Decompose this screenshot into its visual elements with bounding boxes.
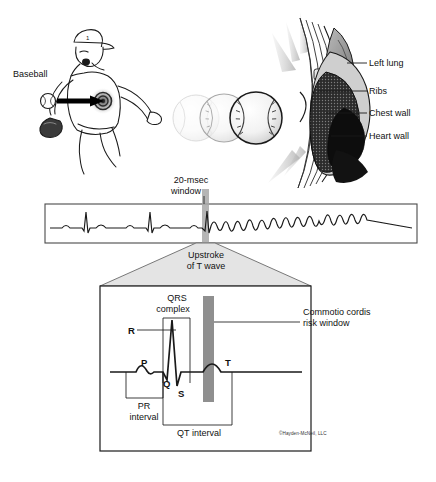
- figure-canvas: 1: [0, 0, 436, 482]
- ribs-label: Ribs: [369, 86, 387, 97]
- funnel-label-line2: of T wave: [173, 261, 239, 272]
- t-wave-label: T: [225, 357, 231, 368]
- chest-wall-label: Chest wall: [369, 108, 411, 119]
- risk-window-label-line1: Commotio cordis: [303, 307, 371, 318]
- chest-cross-section: [298, 18, 370, 188]
- pr-interval-label-line2: interval: [119, 412, 169, 423]
- baseball-primary: [230, 92, 282, 144]
- s-wave-label: S: [178, 388, 184, 399]
- funnel-label-line1: Upstroke: [173, 250, 239, 261]
- p-wave-label: P: [141, 357, 147, 368]
- detail-panel: [100, 286, 311, 451]
- left-lung-label: Left lung: [369, 58, 404, 69]
- rhythm-strip-panel: [45, 189, 417, 250]
- commotio-cordis-figure: 1: [0, 0, 436, 482]
- baseball-label: Baseball: [13, 69, 48, 80]
- impact-shock-rays: [268, 12, 308, 183]
- baseball-motion-sequence: [173, 92, 282, 144]
- risk-window-bar: [203, 296, 214, 402]
- heart-wall-label: Heart wall: [369, 131, 409, 142]
- q-wave-label: Q: [163, 378, 170, 389]
- qrs-label-line1: QRS: [150, 293, 204, 304]
- copyright-notice: ©Hayden-McNeil, LLC: [279, 431, 327, 436]
- risk-window-label-line2: risk window: [303, 318, 350, 329]
- qt-interval-label: QT interval: [166, 428, 232, 439]
- qrs-label-line2: complex: [146, 304, 200, 315]
- window-label-line2: window: [155, 186, 217, 197]
- r-wave-label: R: [128, 325, 135, 336]
- pr-interval-label-line1: PR: [119, 401, 169, 412]
- window-label-line1: 20-msec: [160, 175, 222, 186]
